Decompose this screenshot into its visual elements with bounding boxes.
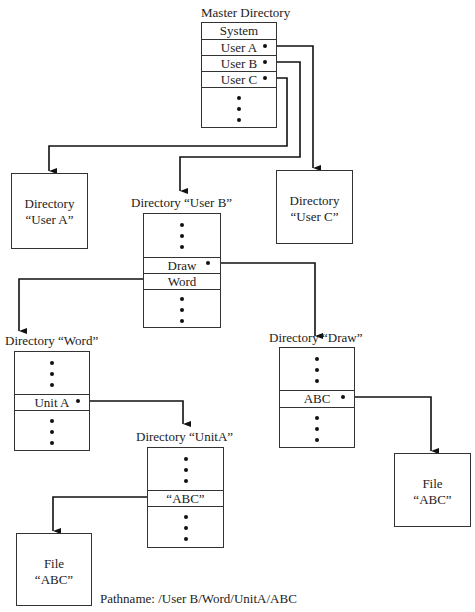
- file-abc-right-box[interactable]: File “ABC”: [394, 453, 471, 527]
- file-name: “ABC”: [395, 492, 470, 508]
- entry-label: Word: [168, 274, 197, 289]
- vertical-ellipsis-icon: [144, 223, 220, 256]
- pointer-dot-icon: [341, 395, 345, 399]
- arrow-unit-a: [80, 401, 183, 424]
- directory-unita-box: “ABC”: [147, 447, 224, 548]
- pointer-dot-icon: [206, 261, 210, 265]
- directory-user-c-box[interactable]: Directory “User C”: [276, 170, 353, 244]
- entry-label: User A: [221, 40, 257, 55]
- directory-user-a-box[interactable]: Directory “User A”: [11, 173, 88, 249]
- directory-user-c-name: “User C”: [277, 209, 352, 225]
- pointer-dot-icon: [263, 44, 267, 48]
- pointer-dot-icon: [263, 60, 267, 64]
- entry-label: ABC: [304, 391, 331, 406]
- ellipsis-section: [202, 87, 276, 128]
- file-label: File: [17, 556, 91, 572]
- arrow-draw: [210, 263, 315, 336]
- arrow-draw-abc: [345, 397, 431, 451]
- pointer-dot-icon: [263, 76, 267, 80]
- vertical-ellipsis-icon: [144, 297, 220, 330]
- directory-user-b-title: Directory “User B”: [131, 196, 232, 209]
- entry-label: User C: [221, 72, 257, 87]
- directory-unita-title: Directory “UnitA”: [136, 430, 233, 443]
- entry-system[interactable]: System: [202, 23, 276, 39]
- vertical-ellipsis-icon: [148, 515, 223, 548]
- pointer-dot-icon: [76, 399, 80, 403]
- vertical-ellipsis-icon: [280, 416, 354, 449]
- directory-user-a-name: “User A”: [12, 212, 87, 228]
- ellipsis-section: [280, 348, 354, 390]
- ellipsis-section: [144, 214, 220, 257]
- ellipsis-section: [280, 407, 354, 447]
- entry-label: User B: [221, 56, 257, 71]
- file-abc-left-box[interactable]: File “ABC”: [16, 533, 92, 606]
- entry-draw[interactable]: Draw: [144, 257, 220, 273]
- master-directory-title: Master Directory: [201, 6, 290, 19]
- entry-word[interactable]: Word: [144, 273, 220, 289]
- directory-word-title: Directory “Word”: [5, 334, 98, 347]
- ellipsis-section: [15, 352, 89, 394]
- vertical-ellipsis-icon: [15, 419, 89, 452]
- ellipsis-section: [15, 410, 89, 450]
- arrow-word: [19, 279, 143, 331]
- vertical-ellipsis-icon: [148, 457, 223, 490]
- file-name: “ABC”: [17, 572, 91, 588]
- vertical-ellipsis-icon: [280, 357, 354, 390]
- master-directory-box: System User A User B User C: [201, 22, 277, 128]
- vertical-ellipsis-icon: [15, 361, 89, 394]
- entry-label: Draw: [168, 258, 197, 273]
- entry-label: “ABC”: [166, 491, 204, 506]
- directory-user-b-box: Draw Word: [143, 213, 221, 328]
- entry-abc-quoted[interactable]: “ABC”: [148, 490, 223, 506]
- arrow-unita-abc: [53, 497, 147, 531]
- directory-user-c-label: Directory: [277, 193, 352, 209]
- entry-label: Unit A: [34, 395, 69, 410]
- ellipsis-section: [148, 506, 223, 547]
- file-label: File: [395, 476, 470, 492]
- directory-user-a-label: Directory: [12, 196, 87, 212]
- vertical-ellipsis-icon: [202, 96, 276, 129]
- ellipsis-section: [148, 448, 223, 490]
- pathname-caption: Pathname: /User B/Word/UnitA/ABC: [100, 592, 297, 605]
- ellipsis-section: [144, 289, 220, 327]
- directory-draw-title: Directory “Draw”: [269, 331, 362, 344]
